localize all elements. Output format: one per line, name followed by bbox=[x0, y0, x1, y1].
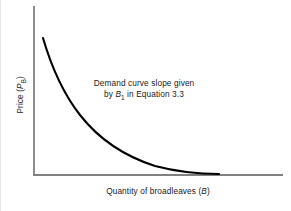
demand-curve-line bbox=[43, 38, 219, 174]
plot-area bbox=[0, 0, 291, 211]
demand-curve-figure: Price (PB) Quantity of broadleaves (B) D… bbox=[0, 0, 291, 211]
annotation-line-2: by B1 in Equation 3.3 bbox=[80, 89, 208, 103]
y-axis-label-subscript: B bbox=[20, 79, 27, 83]
x-axis-label: Quantity of broadleaves (B) bbox=[33, 186, 283, 196]
y-axis-label-symbol: P bbox=[15, 83, 25, 89]
y-axis-label: Price (PB) bbox=[15, 50, 27, 140]
x-axis-label-suffix: ) bbox=[207, 186, 210, 196]
x-axis-label-prefix: Quantity of broadleaves ( bbox=[106, 186, 201, 196]
annotation-line-1: Demand curve slope given bbox=[80, 78, 208, 89]
y-axis-label-suffix: ) bbox=[15, 76, 25, 79]
annotation-line-2-prefix: by bbox=[104, 89, 115, 99]
y-axis-label-prefix: Price ( bbox=[15, 89, 25, 114]
curve-annotation: Demand curve slope given by B1 in Equati… bbox=[80, 78, 208, 103]
annotation-line-2-suffix: in Equation 3.3 bbox=[125, 89, 184, 99]
